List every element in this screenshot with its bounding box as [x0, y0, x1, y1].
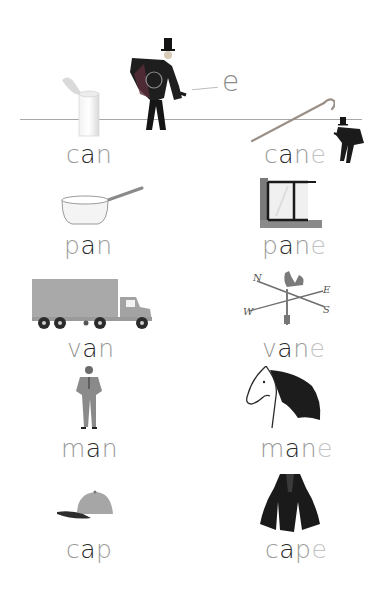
- vowel-letter: a: [80, 537, 96, 562]
- letter: n: [102, 436, 118, 461]
- letter: n: [98, 336, 114, 361]
- word-van: van: [67, 336, 114, 361]
- word-man: man: [61, 436, 118, 461]
- svg-text:N: N: [252, 272, 263, 283]
- letter: p: [295, 537, 311, 562]
- word-vane: vane: [262, 336, 325, 361]
- word-pane: pane: [262, 233, 326, 258]
- letter: p: [96, 537, 112, 562]
- silent-e-letter: e: [309, 336, 325, 361]
- svg-text:W: W: [243, 306, 254, 317]
- letter: n: [294, 142, 310, 167]
- weather-vane-icon: N E S W: [243, 269, 335, 331]
- cape-cloak-icon: [258, 472, 322, 534]
- silent-e-letter: e: [311, 537, 327, 562]
- word-cane: cane: [264, 142, 326, 167]
- vowel-letter: a: [80, 233, 96, 258]
- vowel-letter: a: [277, 336, 293, 361]
- magic-scene: e: [0, 0, 388, 170]
- letter: m: [260, 436, 285, 461]
- saucepan-icon: [58, 186, 146, 228]
- letter: v: [262, 336, 277, 361]
- letter: c: [66, 537, 80, 562]
- letter: c: [66, 142, 80, 167]
- letter: n: [294, 233, 310, 258]
- tin-can-icon: [58, 74, 103, 139]
- vowel-letter: a: [278, 233, 294, 258]
- letter: c: [265, 537, 279, 562]
- magic-spark-line: [192, 87, 218, 91]
- man-in-suit-icon: [72, 365, 106, 431]
- silent-e-letter: e: [317, 436, 333, 461]
- bowing-magician-icon: [332, 117, 368, 165]
- letter: p: [262, 233, 278, 258]
- vowel-letter: a: [285, 436, 301, 461]
- svg-text:E: E: [322, 284, 331, 295]
- walking-cane-icon: [250, 95, 335, 145]
- letter: p: [64, 233, 80, 258]
- letter: c: [264, 142, 278, 167]
- word-cape: cape: [265, 537, 327, 562]
- silent-e-letter: e: [311, 233, 327, 258]
- vowel-letter: a: [279, 537, 295, 562]
- magician-figure-icon: [124, 38, 194, 133]
- letter: n: [293, 336, 309, 361]
- vowel-letter: a: [278, 142, 294, 167]
- word-pan: pan: [64, 233, 113, 258]
- word-can: can: [66, 142, 112, 167]
- horse-mane-icon: [242, 366, 324, 430]
- vowel-letter: a: [80, 142, 96, 167]
- svg-text:S: S: [323, 304, 330, 315]
- word-mane: mane: [260, 436, 333, 461]
- window-pane-icon: [258, 176, 324, 232]
- truck-icon: [30, 277, 155, 333]
- baseball-cap-icon: [57, 490, 115, 522]
- word-cap: cap: [66, 537, 112, 562]
- vowel-letter: a: [82, 336, 98, 361]
- silent-e-letter: e: [310, 142, 326, 167]
- letter: n: [96, 142, 112, 167]
- vowel-letter: a: [86, 436, 102, 461]
- letter: m: [61, 436, 86, 461]
- letter: n: [301, 436, 317, 461]
- letter: v: [67, 336, 82, 361]
- letter: n: [96, 233, 112, 258]
- magic-letter-e: e: [222, 68, 240, 96]
